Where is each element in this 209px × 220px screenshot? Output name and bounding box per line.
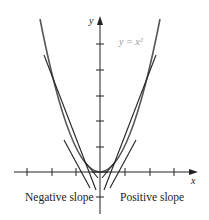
x-axis-label: x bbox=[190, 175, 196, 186]
y-axis-arrow-icon bbox=[97, 16, 103, 25]
negative-slope-label: Negative slope bbox=[25, 191, 94, 204]
positive-slope-label: Positive slope bbox=[120, 191, 184, 204]
y-axis-label: y bbox=[88, 15, 94, 26]
parabola-tangent-diagram: y x y = x² Negative slope Positive slope bbox=[0, 0, 209, 220]
curve-equation-label: y = x² bbox=[118, 36, 144, 47]
axes bbox=[14, 22, 193, 214]
